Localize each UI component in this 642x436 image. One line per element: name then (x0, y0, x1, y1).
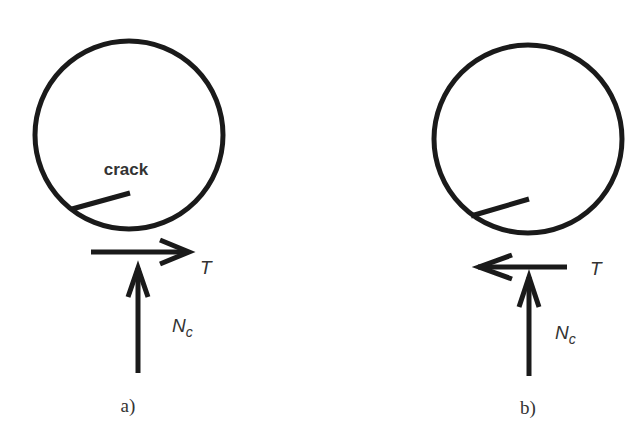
normal-force-label-a: Nc (172, 315, 193, 340)
wheel-circle-b (434, 45, 622, 233)
contact-force-diagram: crack T Nc a) T Nc b) (0, 0, 642, 436)
normal-force-arrow-a (128, 268, 148, 373)
wheel-circle-a (35, 41, 223, 229)
tangential-force-arrow-a (91, 240, 189, 264)
crack-label: crack (104, 160, 149, 179)
normal-force-label-b: Nc (555, 322, 576, 347)
crack-line-a (72, 193, 130, 209)
panel-caption-a: a) (121, 395, 136, 417)
panel-b: T Nc b) (434, 45, 622, 419)
tangential-force-arrow-b (478, 255, 567, 279)
tangential-force-label-a: T (200, 257, 213, 278)
normal-force-arrow-b (519, 277, 539, 376)
crack-line-b (471, 199, 529, 216)
panel-a: crack T Nc a) (35, 41, 223, 417)
tangential-force-label-b: T (590, 258, 603, 279)
panel-caption-b: b) (520, 397, 536, 419)
